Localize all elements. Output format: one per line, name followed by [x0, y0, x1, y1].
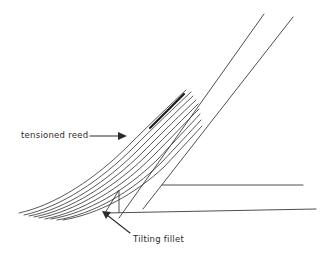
tensioned-reed-bundle: [19, 90, 202, 220]
reed-line: [19, 90, 186, 213]
eaves-horizontal-line: [105, 209, 316, 213]
reed-line: [24, 92, 191, 215]
tilting-fillet-label: Tilting fillet: [133, 235, 184, 244]
tensioned-reed-leader-arrow: [90, 132, 127, 140]
figure-canvas-container: tensioned reed Tilting fillet: [0, 0, 328, 264]
reed-line: [29, 96, 193, 216]
tensioned-reed-label: tensioned reed: [21, 131, 88, 140]
tilting-fillet-leader-arrow: [102, 211, 130, 233]
rafter-upper-line: [119, 14, 264, 218]
